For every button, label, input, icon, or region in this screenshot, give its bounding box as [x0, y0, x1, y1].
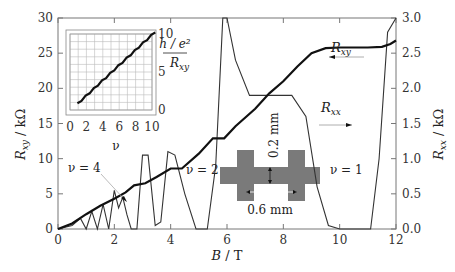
inset-y-label-numerator: h / e² — [159, 37, 191, 51]
y-left-tick-label: 0 — [45, 222, 53, 236]
y-right-tick-label: 2.5 — [402, 46, 421, 60]
y-left-tick-label: 20 — [38, 81, 53, 95]
y-left-axis-ticks: 051015202530 — [38, 11, 63, 236]
x-tick-label: 0 — [54, 233, 62, 247]
chart-canvas: 024681012 051015202530 0.00.51.01.52.02.… — [0, 0, 455, 272]
y-left-tick-label: 10 — [38, 152, 53, 166]
y-left-tick-label: 30 — [38, 11, 53, 25]
inset-x-tick: 0 — [66, 120, 74, 134]
device-left-contact — [237, 150, 254, 201]
y-left-tick-label: 25 — [38, 46, 53, 60]
y-left-axis-label: Rxy / kΩ — [13, 109, 30, 161]
inset-x-tick: 4 — [99, 120, 107, 134]
x-tick-label: 4 — [167, 233, 175, 247]
inset-x-tick: 2 — [83, 120, 91, 134]
nu-2-label: ν = 2 — [186, 163, 219, 177]
device-right-contact — [288, 150, 305, 201]
arrow-left-icon — [329, 55, 335, 59]
y-right-axis-label: Rxx / kΩ — [431, 109, 448, 161]
y-left-tick-label: 5 — [45, 187, 53, 201]
inset-plot: 02468100510 ν h / e² Rxy — [66, 27, 191, 153]
y-right-tick-label: 0.0 — [402, 222, 421, 236]
nu-1-label: ν = 1 — [330, 163, 363, 177]
inset-x-tick: 8 — [132, 120, 140, 134]
inset-y-tick: 0 — [158, 103, 166, 117]
arrow-right-icon — [346, 123, 352, 127]
y-right-tick-label: 1.5 — [402, 117, 421, 131]
y-right-tick-label: 2.0 — [402, 81, 421, 95]
inset-y-tick: 5 — [158, 65, 166, 79]
nu-4-pointer — [101, 174, 124, 199]
x-tick-label: 2 — [111, 233, 119, 247]
inset-x-tick: 6 — [115, 120, 123, 134]
y-right-tick-label: 0.5 — [402, 187, 421, 201]
dim-label-horizontal: 0.6 mm — [247, 203, 293, 217]
x-tick-label: 6 — [223, 233, 231, 247]
x-axis-label: B / T — [211, 248, 243, 263]
rxy-tag: Rxy — [330, 40, 352, 57]
y-right-tick-label: 1.0 — [402, 152, 421, 166]
y-left-tick-label: 15 — [38, 117, 53, 131]
x-tick-label: 10 — [332, 233, 347, 247]
rxx-tag: Rxx — [320, 100, 341, 117]
x-tick-label: 8 — [280, 233, 288, 247]
inset-y-label-denominator: Rxy — [169, 56, 190, 72]
y-right-tick-label: 3.0 — [402, 11, 421, 25]
inset-x-tick: 10 — [144, 120, 159, 134]
dim-label-vertical: 0.2 mm — [267, 112, 281, 158]
inset-x-label: ν — [112, 139, 119, 153]
nu-4-label: ν = 4 — [68, 161, 101, 175]
